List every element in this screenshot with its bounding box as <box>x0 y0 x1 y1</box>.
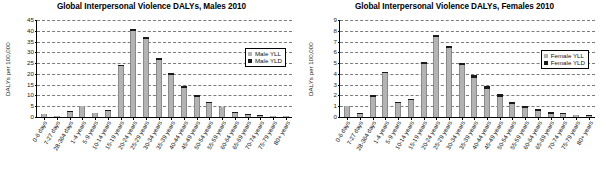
bar-segment-yll <box>408 100 414 117</box>
bar-slot <box>341 20 354 117</box>
y-tick-mark <box>338 20 341 21</box>
y-axis-title-males: DALYs per 100,000 <box>3 20 13 118</box>
y-tick-mark <box>338 52 341 53</box>
y-tick-label: 0 <box>334 114 337 120</box>
stacked-bar <box>118 65 124 117</box>
x-axis-labels-males: 0-6 days7-27 days28-364 days1-4 years5-9… <box>37 119 292 173</box>
bar-slot <box>279 20 292 117</box>
bar-slot <box>51 20 64 117</box>
stacked-bar <box>143 37 149 117</box>
legend-swatch-yld <box>248 59 252 63</box>
y-tick-label: 5 <box>31 103 34 109</box>
y-tick-mark <box>35 74 38 75</box>
bar-slot <box>127 20 140 117</box>
y-tick-mark <box>338 31 341 32</box>
stacked-bar <box>219 107 225 117</box>
y-tick-mark <box>338 85 341 86</box>
y-tick-mark <box>35 42 38 43</box>
y-tick-label: 40 <box>27 28 34 34</box>
chart-title-males: Global Interpersonal Violence DALYs, Mal… <box>0 2 303 12</box>
y-tick-mark <box>35 117 38 118</box>
legend-label: Female YLD <box>551 60 585 67</box>
bar-slot <box>241 20 254 117</box>
stacked-bar <box>181 86 187 117</box>
y-tick-mark <box>35 106 38 107</box>
bar-slot <box>392 20 405 117</box>
bar-segment-yll <box>168 75 174 117</box>
y-tick-mark <box>338 42 341 43</box>
x-label-slot: 1-4 years <box>378 119 391 173</box>
y-tick-label: 6 <box>334 49 337 55</box>
bar-slot <box>63 20 76 117</box>
plot-area-females: 0123456789 Female YLLFemale YLD <box>339 20 595 118</box>
bar-slot <box>254 20 267 117</box>
legend-females: Female YLLFemale YLD <box>541 50 589 69</box>
bar-segment-yll <box>206 103 212 117</box>
plot-area-males: 051015202530354045 Male YLLMale YLD <box>36 20 292 118</box>
bar-segment-yll <box>382 73 388 117</box>
bar-slot <box>366 20 379 117</box>
legend-swatch-yld <box>544 61 548 65</box>
bar-segment-yll <box>446 48 452 117</box>
y-axis-title-label-males: DALYs per 100,000 <box>5 42 11 96</box>
y-tick-label: 7 <box>334 38 337 44</box>
bar-segment-yll <box>433 37 439 117</box>
bar-slot <box>379 20 392 117</box>
bar-slot <box>76 20 89 117</box>
bar-slot <box>152 20 165 117</box>
bar-segment-yll <box>219 107 225 117</box>
x-axis-labels-females: 0-6 days7-27 days28-364 days1-4 years5-9… <box>340 119 595 173</box>
bar-segment-yll <box>395 103 401 117</box>
y-tick-label: 3 <box>334 82 337 88</box>
bar-slot <box>203 20 216 117</box>
bar-slot <box>405 20 418 117</box>
stacked-bar <box>459 63 465 117</box>
stacked-bar <box>168 73 174 117</box>
x-label-slot: 80+ years <box>582 119 595 173</box>
y-tick-mark <box>338 95 341 96</box>
bar-slot <box>443 20 456 117</box>
bar-segment-yll <box>118 66 124 117</box>
y-tick-label: 4 <box>334 71 337 77</box>
bar-slot <box>493 20 506 117</box>
bar-segment-yll <box>522 108 528 117</box>
x-label-slot: 28-364 days <box>63 119 76 173</box>
y-tick-mark <box>338 63 341 64</box>
y-tick-mark <box>35 63 38 64</box>
bar-segment-yll <box>130 31 136 117</box>
stacked-bar <box>433 35 439 117</box>
stacked-bar <box>79 106 85 117</box>
bar-segment-yll <box>194 97 200 117</box>
y-tick-label: 5 <box>334 60 337 66</box>
y-tick-label: 10 <box>27 92 34 98</box>
dual-bar-chart-figure: Global Interpersonal Violence DALYs, Mal… <box>0 0 606 175</box>
bar-slot <box>38 20 51 117</box>
legend-item: Female YLD <box>544 60 585 67</box>
bar-slot <box>140 20 153 117</box>
stacked-bar <box>156 58 162 117</box>
legend-item: Male YLD <box>248 58 282 65</box>
bar-slot <box>481 20 494 117</box>
bar-slot <box>455 20 468 117</box>
bar-slot <box>102 20 115 117</box>
y-tick-label: 1 <box>334 103 337 109</box>
y-tick-mark <box>338 106 341 107</box>
x-label-slot: 80+ years <box>279 119 292 173</box>
y-tick-mark <box>338 74 341 75</box>
y-tick-mark <box>35 95 38 96</box>
bar-segment-yll <box>143 39 149 117</box>
x-label-slot: 28-364 days <box>366 119 379 173</box>
stacked-bar <box>497 94 503 117</box>
bar-segment-yll <box>344 106 350 117</box>
y-tick-label: 9 <box>334 17 337 23</box>
bar-slot <box>430 20 443 117</box>
bar-segment-yll <box>79 106 85 117</box>
stacked-bar <box>535 109 541 117</box>
legend-swatch-yll <box>248 52 252 56</box>
stacked-bar <box>395 102 401 117</box>
legend-males: Male YLLMale YLD <box>245 48 286 67</box>
stacked-bar <box>370 95 376 117</box>
y-tick-label: 15 <box>27 82 34 88</box>
stacked-bar <box>194 95 200 117</box>
y-tick-mark <box>338 117 341 118</box>
